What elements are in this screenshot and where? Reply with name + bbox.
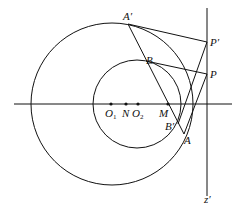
point-N: [124, 102, 127, 105]
label-A: A: [183, 134, 191, 146]
label-M: M: [158, 107, 169, 119]
label-P-prime: P′: [209, 36, 220, 48]
label-B: B: [146, 54, 153, 66]
point-O2: [136, 102, 139, 105]
diagram-svg: A′ P′ B P O1 N O2 M B′ A z′: [0, 0, 244, 215]
segment-Aprime-Pprime: [128, 24, 207, 42]
label-A-prime: A′: [122, 10, 133, 22]
geometry-diagram: A′ P′ B P O1 N O2 M B′ A z′: [0, 0, 244, 215]
label-O2: O2: [132, 107, 144, 121]
label-N: N: [121, 107, 130, 119]
label-P: P: [209, 68, 217, 80]
point-M: [166, 102, 169, 105]
point-O1: [109, 102, 112, 105]
label-O1: O1: [105, 107, 117, 121]
label-z-prime: z′: [203, 193, 211, 205]
label-B-prime: B′: [165, 120, 175, 132]
